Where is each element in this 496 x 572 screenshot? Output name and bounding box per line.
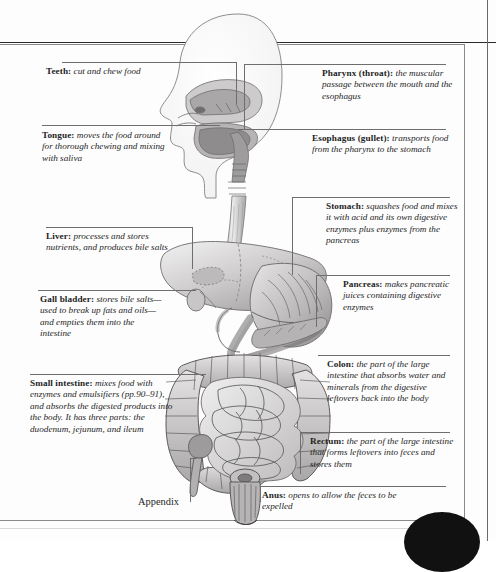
label-pancreas-head: Pancreas:: [343, 279, 383, 289]
label-colon-head: Colon:: [327, 359, 354, 369]
label-teeth-body: cut and chew food: [71, 66, 140, 76]
leader-pharynx-v: [244, 64, 245, 130]
page-right-edge-rule: [487, 0, 488, 541]
label-esophagus-head: Esophagus (gullet):: [312, 133, 390, 143]
leader-teeth-v: [236, 62, 237, 104]
label-gall-bladder: Gall bladder: stores bile salts—used to …: [40, 294, 166, 340]
leader-teeth-h: [62, 62, 236, 63]
label-tongue-head: Tongue:: [42, 130, 75, 140]
label-liver-head: Liver:: [46, 231, 71, 241]
leader-smallintestine-h: [30, 374, 206, 375]
leader-gallbladder-h: [38, 290, 196, 291]
label-teeth-head: Teeth:: [46, 66, 71, 76]
label-anus: Anus: opens to allow the feces to be exp…: [262, 490, 412, 513]
label-pharynx-head: Pharynx (throat):: [322, 68, 393, 78]
label-esophagus: Esophagus (gullet): transports food from…: [312, 133, 464, 156]
label-stomach-head: Stomach:: [326, 201, 364, 211]
leader-colon-h: [318, 355, 450, 356]
leader-pancreas-h: [316, 275, 450, 276]
page-top-rule: [0, 42, 496, 43]
label-small-intestine-head: Small intestine:: [30, 378, 93, 388]
label-teeth: Teeth: cut and chew food: [46, 66, 164, 77]
label-rectum: Rectum: the part of the large intestine …: [310, 436, 458, 470]
label-anus-head: Anus:: [262, 490, 286, 500]
leader-pharynx-h: [244, 64, 446, 65]
label-small-intestine: Small intestine: mixes food with enzymes…: [30, 378, 180, 435]
leader-liver-h: [46, 227, 192, 228]
label-appendix-text: Appendix: [138, 496, 179, 507]
leader-anus-h: [260, 486, 446, 487]
leader-rectum-v: [300, 432, 301, 474]
label-pharynx: Pharynx (throat): the muscular passage b…: [322, 68, 474, 102]
leader-esophagus-h: [238, 129, 446, 130]
label-gall-bladder-head: Gall bladder:: [40, 294, 94, 304]
leader-tongue-h: [42, 125, 220, 126]
leader-pancreas-v: [316, 275, 317, 327]
leader-stomach-h: [292, 197, 450, 198]
page-thumb-tab: [404, 512, 480, 572]
label-colon: Colon: the part of the large intestine t…: [327, 359, 459, 405]
label-appendix: Appendix: [138, 496, 208, 508]
page-bottom-rule: [0, 528, 470, 529]
leader-stomach-v: [292, 197, 293, 275]
label-rectum-head: Rectum:: [310, 436, 344, 446]
leader-liver-v: [192, 227, 193, 269]
leader-rectum-h: [300, 432, 450, 433]
label-stomach: Stomach: squashes food and mixes it with…: [326, 201, 460, 247]
label-tongue: Tongue: moves the food around for thorou…: [42, 130, 166, 164]
leader-anus-v: [260, 486, 261, 502]
label-pancreas: Pancreas: makes pancreatic juices contai…: [343, 279, 463, 313]
label-liver: Liver: processes and stores nutrients, a…: [46, 231, 172, 254]
